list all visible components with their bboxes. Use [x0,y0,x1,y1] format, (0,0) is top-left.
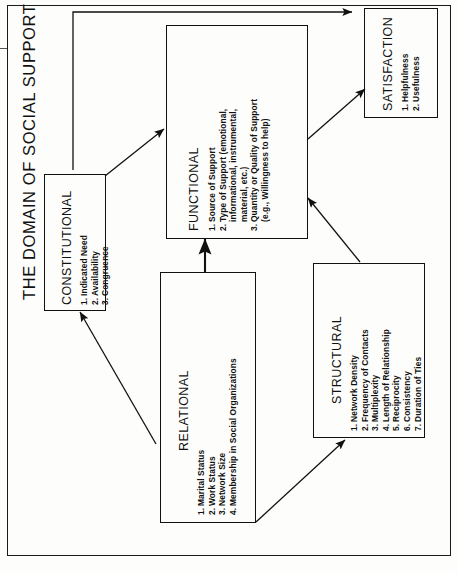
list-item: 7.Duration of Ties [413,329,424,431]
list-item: informational, instrumental, [228,99,239,231]
list-item: 2.Availability [90,235,101,305]
list-item: material, etc.) [239,99,250,231]
box-relational-heading: RELATIONAL [177,370,191,451]
list-item: 3.Congruence [100,235,111,305]
list-item: 3.Network Size [217,358,228,515]
list-item: (e.g., Willingness to help) [260,99,271,231]
list-item: 2.Type of Support (emotional, [218,99,229,231]
box-relational[interactable]: RELATIONAL 1.Marital Status 2.Work Statu… [160,272,256,523]
box-satisfaction-items: 1.Helpfulness 2.Usefulness [400,53,421,111]
box-structural-items: 1.Network Density 2.Frequency of Contact… [349,329,423,431]
list-item: 1.Source of Support [207,99,218,231]
box-constitutional-heading: CONSTITUTIONAL [60,190,74,305]
list-item: 1.Indicated Need [79,235,90,305]
box-constitutional[interactable]: CONSTITUTIONAL 1.Indicated Need 2.Availa… [44,174,106,311]
list-item: 3.Multiplexity [370,329,381,431]
list-item: 2.Usefulness [411,53,422,111]
list-item: 1.Marital Status [196,358,207,515]
list-item: 4.Length of Relationship [381,329,392,431]
box-structural[interactable]: STRUCTURAL 1.Network Density 2.Frequency… [313,263,425,438]
page-title-text: THE DOMAIN OF SOCIAL SUPPORT [20,4,39,300]
list-item: 5.Reciprocity [391,329,402,431]
list-item: 3.Quantity or Quality of Support [249,99,260,231]
list-item: 6.Consistency [402,329,413,431]
list-item: 2.Work Status [207,358,218,515]
box-relational-items: 1.Marital Status 2.Work Status 3.Network… [196,358,238,515]
box-functional-heading: FUNCTIONAL [187,147,201,231]
scan-artifact-mark [0,48,7,49]
box-satisfaction[interactable]: SATISFACTION 1.Helpfulness 2.Usefulness [364,8,438,118]
list-item: 1.Network Density [349,329,360,431]
box-structural-heading: STRUCTURAL [330,316,344,404]
page-title: THE DOMAIN OF SOCIAL SUPPORT [16,0,46,420]
box-functional-items: 1.Source of Support 2.Type of Support (e… [207,99,271,231]
box-constitutional-items: 1.Indicated Need 2.Availability 3.Congru… [79,235,111,305]
list-item: 2.Frequency of Contacts [360,329,371,431]
list-item: 4.Membership in Social Organizations [228,358,239,515]
list-item: 1.Helpfulness [400,53,411,111]
diagram-page: THE DOMAIN OF SOCIAL SUPPORT CONSTIT [0,0,458,573]
box-satisfaction-heading: SATISFACTION [381,17,395,111]
box-functional[interactable]: FUNCTIONAL 1.Source of Support 2.Type of… [166,25,308,239]
